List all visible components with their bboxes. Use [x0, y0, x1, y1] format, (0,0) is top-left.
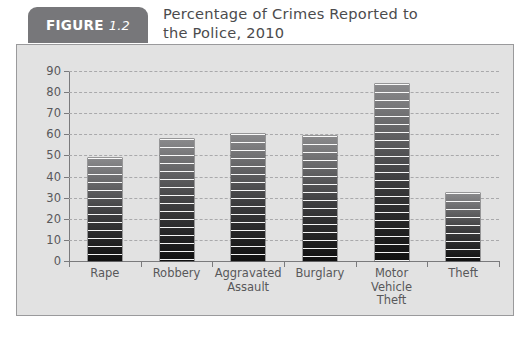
bar — [160, 139, 194, 261]
y-tick-mark — [64, 198, 69, 199]
y-axis-line — [69, 71, 70, 261]
figure-container: FIGURE 1.2 Percentage of Crimes Reported… — [0, 0, 530, 338]
y-tick-mark — [64, 92, 69, 93]
y-tick-mark — [64, 113, 69, 114]
gridline — [69, 113, 499, 114]
y-tick-mark — [64, 134, 69, 135]
bar — [375, 84, 409, 261]
figure-badge-number: 1.2 — [109, 18, 130, 33]
y-tick-mark — [64, 177, 69, 178]
y-tick-label: 20 — [46, 212, 61, 226]
gridline — [69, 240, 499, 241]
y-tick-mark — [64, 155, 69, 156]
y-tick-label: 90 — [46, 64, 61, 78]
figure-title: Percentage of Crimes Reported to the Pol… — [163, 4, 503, 42]
y-tick-label: 10 — [46, 233, 61, 247]
figure-title-line-1: Percentage of Crimes Reported to — [163, 4, 503, 23]
y-tick-label: 80 — [46, 85, 61, 99]
figure-title-line-2: the Police, 2010 — [163, 23, 503, 42]
y-tick-mark — [64, 71, 69, 72]
y-tick-label: 30 — [46, 191, 61, 205]
y-tick-label: 70 — [46, 106, 61, 120]
y-tick-mark — [64, 219, 69, 220]
bar — [446, 193, 480, 261]
y-tick-label: 60 — [46, 127, 61, 141]
x-axis-label-line: Vehicle — [347, 281, 437, 295]
y-tick-label: 0 — [54, 254, 61, 268]
figure-header: FIGURE 1.2 Percentage of Crimes Reported… — [0, 0, 530, 50]
chart-panel: 0102030405060708090 RapeRobberyAggravate… — [16, 44, 514, 316]
y-tick-mark — [64, 240, 69, 241]
x-axis-label-line: Assault — [203, 281, 293, 295]
bar — [231, 134, 265, 261]
gridline — [69, 198, 499, 199]
gridline — [69, 177, 499, 178]
gridline — [69, 155, 499, 156]
x-axis-label-line: Theft — [347, 294, 437, 308]
x-axis-label: Theft — [418, 267, 508, 281]
gridline — [69, 71, 499, 72]
bar — [303, 136, 337, 261]
gridline — [69, 134, 499, 135]
gridline — [69, 219, 499, 220]
plot-area: 0102030405060708090 — [69, 71, 499, 261]
x-axis-label-line: Theft — [418, 267, 508, 281]
gridline — [69, 92, 499, 93]
y-tick-label: 40 — [46, 170, 61, 184]
figure-badge-word: FIGURE — [46, 17, 104, 33]
figure-badge: FIGURE 1.2 — [28, 7, 148, 43]
bar — [88, 158, 122, 261]
y-tick-label: 50 — [46, 148, 61, 162]
